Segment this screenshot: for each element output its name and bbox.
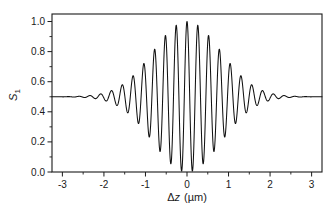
x-axis-label-variable: z bbox=[174, 191, 181, 203]
chart-background bbox=[0, 0, 333, 213]
x-tick-label-5: 2 bbox=[267, 179, 273, 190]
x-tick-label-4: 1 bbox=[226, 179, 232, 190]
interferogram-plot: 0.00.20.40.60.81.0 -3-2-10123 S1 Δz(µm) bbox=[0, 0, 333, 213]
chart-figure: 0.00.20.40.60.81.0 -3-2-10123 S1 Δz(µm) bbox=[0, 0, 333, 213]
y-tick-label-1: 0.2 bbox=[31, 136, 45, 147]
x-tick-label-3: 0 bbox=[184, 179, 190, 190]
x-tick-label-0: -3 bbox=[58, 179, 67, 190]
x-axis-label-unit: (µm) bbox=[184, 191, 207, 203]
x-tick-label-1: -2 bbox=[99, 179, 108, 190]
x-axis-label: Δz(µm) bbox=[167, 191, 207, 203]
y-tick-label-0: 0.0 bbox=[31, 167, 45, 178]
y-tick-label-2: 0.4 bbox=[31, 106, 45, 117]
y-tick-label-5: 1.0 bbox=[31, 16, 45, 27]
y-axis-label-subscript: 1 bbox=[13, 89, 22, 94]
y-tick-label-3: 0.6 bbox=[31, 76, 45, 87]
svg-text:Δz(µm): Δz(µm) bbox=[167, 191, 207, 203]
y-tick-label-4: 0.8 bbox=[31, 46, 45, 57]
x-tick-label-6: 3 bbox=[309, 179, 315, 190]
x-tick-label-2: -1 bbox=[141, 179, 150, 190]
